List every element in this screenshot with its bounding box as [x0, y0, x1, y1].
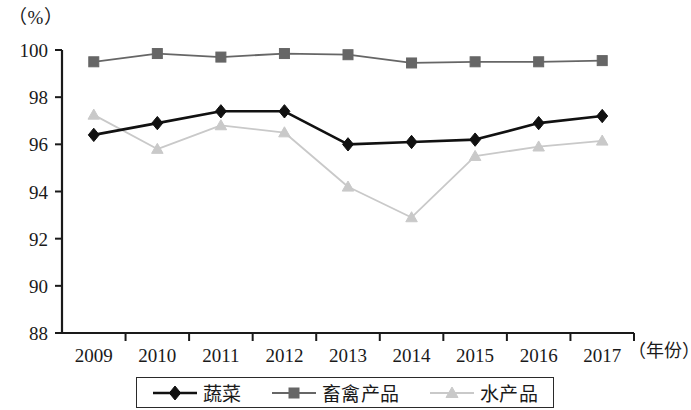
square-marker: [407, 58, 417, 68]
x-tick-label: 2011: [202, 345, 239, 366]
triangle-marker: [88, 109, 100, 119]
y-tick-label: 96: [29, 134, 48, 155]
y-tick-label: 100: [20, 40, 49, 61]
diamond-marker: [88, 128, 99, 141]
legend-item-0[interactable]: 蔬菜: [150, 379, 244, 406]
series-square: [89, 49, 607, 68]
y-axis-labels: 889092949698100: [20, 40, 49, 344]
diamond-marker: [152, 385, 198, 401]
square-marker: [534, 57, 544, 67]
legend-label: 蔬菜: [203, 379, 242, 406]
square-marker: [470, 57, 480, 67]
square-marker: [343, 50, 353, 60]
x-axis-title: （年份）: [628, 336, 691, 362]
plot-area: 889092949698100 200920102011201220132014…: [0, 0, 691, 410]
x-tick-label: 2014: [393, 345, 432, 366]
x-tick-label: 2015: [456, 345, 494, 366]
diamond-marker: [279, 105, 290, 118]
square-marker: [271, 385, 317, 401]
series-layer: [88, 49, 608, 222]
legend-label: 畜禽产品: [322, 379, 400, 406]
x-tick-label: 2012: [265, 345, 303, 366]
y-tick-label: 90: [29, 276, 48, 297]
triangle-marker: [215, 120, 227, 130]
x-tick-label: 2009: [75, 345, 113, 366]
diamond-marker: [470, 133, 481, 146]
diamond-marker: [406, 135, 417, 148]
x-tick-label: 2016: [520, 345, 558, 366]
x-axis-labels: 200920102011201220132014201520162017: [75, 345, 621, 366]
y-tick-label: 98: [29, 87, 48, 108]
y-tick-label: 88: [29, 323, 48, 344]
legend-item-1[interactable]: 畜禽产品: [269, 379, 402, 406]
diamond-marker: [597, 109, 608, 122]
square-marker: [597, 56, 607, 66]
y-tick-label: 94: [29, 182, 49, 203]
triangle-marker: [429, 385, 475, 401]
legend-label: 水产品: [480, 379, 539, 406]
diamond-marker: [215, 105, 226, 118]
diamond-marker: [533, 116, 544, 129]
y-tick-label: 92: [29, 229, 48, 250]
square-marker: [152, 49, 162, 59]
x-axis-tick-group: [126, 333, 634, 341]
x-tick-label: 2010: [138, 345, 176, 366]
line-chart: （%） 889092949698100 20092010201120122013…: [0, 0, 691, 410]
diamond-marker: [343, 138, 354, 151]
triangle-marker: [596, 135, 608, 145]
legend-item-2[interactable]: 水产品: [427, 379, 541, 406]
diamond-marker: [169, 386, 180, 400]
series-line: [94, 115, 602, 218]
series-diamond: [88, 105, 607, 151]
square-marker: [289, 388, 299, 398]
square-marker: [216, 52, 226, 62]
x-tick-label: 2017: [583, 345, 621, 366]
chart-legend: 蔬菜畜禽产品水产品: [136, 377, 554, 408]
x-tick-label: 2013: [329, 345, 367, 366]
square-marker: [89, 57, 99, 67]
diamond-marker: [152, 116, 163, 129]
square-marker: [279, 49, 289, 59]
